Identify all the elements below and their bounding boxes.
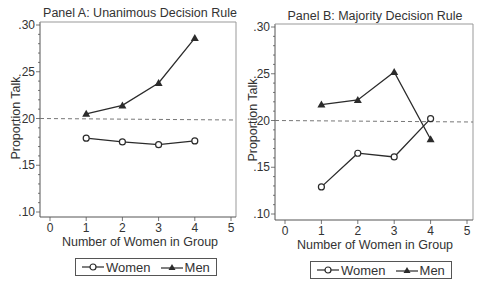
hollow-circle-marker-icon [317,265,339,275]
filled-triangle-marker [118,101,126,108]
legend-item-men: Men [161,260,210,275]
x-tick-label: 4 [427,224,434,238]
hollow-circle-marker [428,116,434,122]
y-tick-label: .20 [18,112,35,126]
hollow-circle-marker [391,154,397,160]
y-tick-label: .25 [18,65,35,79]
panel-a-legend: Women Men [75,258,217,276]
y-tick-label: .10 [18,205,35,219]
panel-b-xlabel: Number of Women in Group [297,238,453,252]
series-line-women [86,138,195,145]
panel-b-plot: Panel B: Majority Decision Rule Proporti… [240,0,483,292]
hollow-circle-marker [355,150,361,156]
hollow-circle-marker [83,135,89,141]
x-tick-label: 1 [83,221,90,235]
panel-b: Panel B: Majority Decision Rule Proporti… [240,0,483,292]
y-tick-label: .15 [253,160,270,174]
hollow-circle-marker [119,139,125,145]
y-tick-label: .15 [18,158,35,172]
filled-triangle-marker-icon [396,265,418,275]
panel-a-title: Panel A: Unanimous Decision Rule [43,6,237,20]
series-line-women [321,119,430,187]
filled-triangle-marker-icon [161,262,183,272]
filled-triangle-marker [191,34,199,41]
hollow-circle-marker [156,142,162,148]
hollow-circle-marker [192,138,198,144]
legend-label-men: Men [420,263,445,278]
panel-a: Panel A: Unanimous Decision Rule Proport… [0,0,245,292]
legend-label-men: Men [185,260,210,275]
x-tick-label: 3 [391,224,398,238]
legend-label-women: Women [341,263,386,278]
series-line-men [86,38,195,114]
x-tick-label: 2 [119,221,126,235]
filled-triangle-marker [427,135,435,142]
x-tick-label: 4 [191,221,198,235]
panel-a-plot: Panel A: Unanimous Decision Rule Proport… [0,0,245,292]
legend-item-men: Men [396,263,445,278]
y-tick-label: .20 [253,114,270,128]
y-tick-label: .30 [253,20,270,34]
legend-label-women: Women [106,260,151,275]
reference-line [40,119,236,121]
hollow-circle-marker-icon [82,262,104,272]
x-tick-label: 2 [354,224,361,238]
reference-line [275,121,473,123]
panel-a-xlabel: Number of Women in Group [62,235,218,249]
x-tick-label: 5 [464,224,471,238]
x-tick-label: 1 [318,224,325,238]
x-tick-label: 3 [155,221,162,235]
x-tick-label: 0 [47,221,54,235]
legend-item-women: Women [82,260,151,275]
panel-b-title: Panel B: Majority Decision Rule [287,9,462,23]
series-line-men [321,72,430,139]
panel-b-legend: Women Men [310,261,452,279]
y-tick-label: .30 [18,18,35,32]
y-tick-label: .10 [253,207,270,221]
hollow-circle-marker [318,184,324,190]
legend-item-women: Women [317,263,386,278]
panel-b-plot-area: .10.15.20.25.30012345 [253,20,473,238]
x-tick-label: 0 [282,224,289,238]
y-tick-label: .25 [253,67,270,81]
panel-a-plot-area: .10.15.20.25.30012345 [18,18,236,235]
filled-triangle-marker [390,68,398,75]
x-tick-label: 5 [228,221,235,235]
